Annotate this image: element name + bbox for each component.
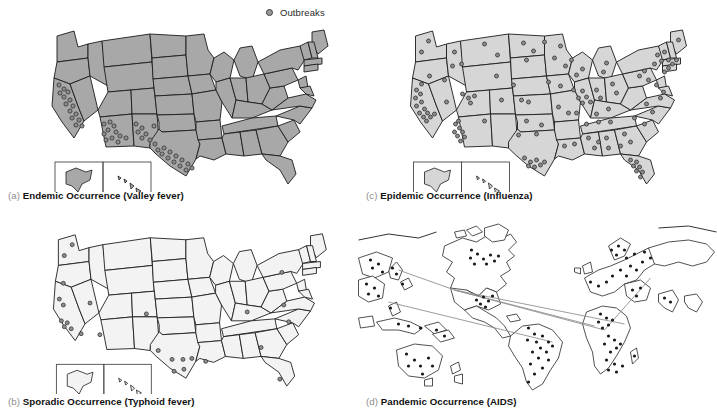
- caption-index-d: (d): [366, 396, 381, 407]
- caption-text-c: Epidemic Occurrence (Influenza): [380, 190, 532, 201]
- panel-d-pandemic-map: [358, 218, 717, 394]
- panel-a-endemic-map: [0, 14, 358, 192]
- caption-text-b: Sporadic Occurrence (Typhoid fever): [23, 396, 195, 407]
- inset-alaska-hawaii-c: [414, 162, 510, 192]
- us-states-c: [411, 30, 687, 184]
- caption-panel-c: (c) Epidemic Occurrence (Influenza): [366, 190, 532, 201]
- inset-alaska-hawaii-a: [55, 162, 151, 192]
- inset-alaska-hawaii-b: [56, 364, 151, 394]
- panel-b-sporadic-map: [0, 218, 358, 394]
- caption-text-a: Endemic Occurrence (Valley fever): [23, 190, 184, 201]
- caption-index-b: (b): [8, 396, 23, 407]
- caption-index-c: (c): [366, 190, 380, 201]
- disease-occurrence-figure: Outbreaks: [0, 0, 717, 419]
- caption-panel-b: (b) Sporadic Occurrence (Typhoid fever): [8, 396, 194, 407]
- caption-index-a: (a): [8, 190, 23, 201]
- caption-panel-d: (d) Pandemic Occurrence (AIDS): [366, 396, 517, 407]
- panel-c-epidemic-map: [358, 14, 717, 192]
- us-states-a: [52, 30, 328, 184]
- us-states-b: [53, 234, 326, 386]
- caption-panel-a: (a) Endemic Occurrence (Valley fever): [8, 190, 184, 201]
- caption-text-d: Pandemic Occurrence (AIDS): [381, 396, 517, 407]
